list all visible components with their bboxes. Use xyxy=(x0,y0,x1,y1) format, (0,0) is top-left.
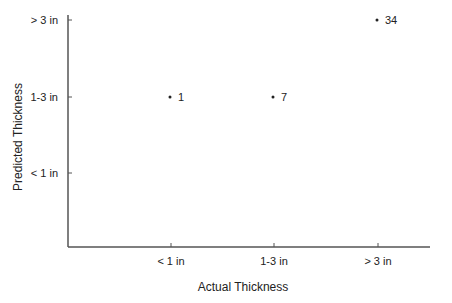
point-marker xyxy=(376,19,379,22)
x-axis-title: Actual Thickness xyxy=(198,280,289,294)
chart-canvas: > 3 in 1-3 in < 1 in < 1 in 1-3 in > 3 i… xyxy=(0,0,452,303)
point-label: 1 xyxy=(178,91,184,103)
data-points: 1734 xyxy=(169,14,398,103)
y-tick-label: < 1 in xyxy=(31,167,58,179)
data-point: 34 xyxy=(376,14,398,26)
y-tick-label: > 3 in xyxy=(31,14,58,26)
x-tick-label: 1-3 in xyxy=(260,255,288,267)
data-point: 1 xyxy=(169,91,185,103)
y-axis-ticks: > 3 in 1-3 in < 1 in xyxy=(30,14,72,179)
y-tick-label: 1-3 in xyxy=(30,91,58,103)
point-label: 7 xyxy=(281,91,287,103)
thickness-scatter-chart: > 3 in 1-3 in < 1 in < 1 in 1-3 in > 3 i… xyxy=(0,0,452,303)
point-label: 34 xyxy=(385,14,397,26)
x-tick-label: > 3 in xyxy=(364,255,391,267)
point-marker xyxy=(169,96,172,99)
data-point: 7 xyxy=(272,91,288,103)
y-axis-title: Predicted Thickness xyxy=(11,83,25,191)
x-tick-label: < 1 in xyxy=(157,255,184,267)
point-marker xyxy=(272,96,275,99)
